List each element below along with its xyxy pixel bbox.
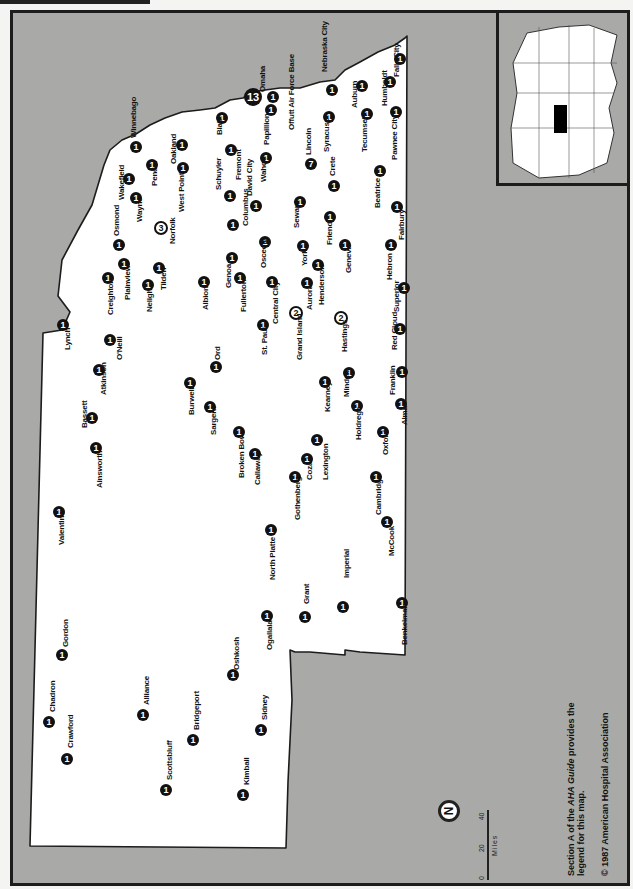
city-label: Broken Bow [237, 433, 246, 478]
city-label: Kimball [242, 758, 251, 786]
city-label: North Platte [268, 537, 277, 580]
hospital-count-marker: 1 [61, 753, 73, 765]
city-label: Creighton [106, 279, 115, 315]
city-label: Central City [271, 282, 280, 325]
city-label: Tilden [159, 268, 168, 290]
city-label: McCook [387, 526, 396, 556]
city-label: Oshkosh [232, 637, 241, 670]
hospital-count-marker: 1 [226, 252, 238, 264]
hospital-count-marker: 1 [160, 784, 172, 796]
city-label: St. Paul [260, 327, 269, 355]
city-label: Beatrice [373, 178, 382, 208]
city-label: Superior [392, 281, 401, 312]
city-label: Wahoo [259, 157, 268, 182]
legend-note: Section A of the AHA Guide provides the … [566, 702, 586, 876]
city-label: West Point [177, 173, 186, 212]
city-label: Henderson [317, 265, 326, 305]
hospital-count-marker: 1 [255, 724, 267, 736]
city-label: Grant [302, 584, 311, 604]
city-label: Schuyler [214, 158, 223, 190]
hospital-count-marker: 1 [299, 611, 311, 623]
scale-tick-40: 40 [478, 813, 485, 821]
hospital-count-marker: 1 [43, 716, 55, 728]
city-label: York [300, 250, 309, 266]
city-label: Crawford [66, 714, 75, 748]
city-label: Hebron [385, 253, 394, 280]
hospital-count-marker: 1 [137, 709, 149, 721]
city-label: Sidney [260, 695, 269, 720]
hospital-count-marker: 1 [210, 361, 222, 373]
nebraska-highlight [554, 105, 567, 133]
city-label: Lincoln [304, 128, 313, 155]
city-label: Geneva [344, 245, 353, 273]
city-label: Chadron [48, 681, 57, 713]
city-label: Minden [342, 370, 351, 397]
city-label: Callaway [253, 452, 262, 485]
city-label: Blair [215, 118, 224, 135]
hospital-count-marker: 1 [56, 649, 68, 661]
scale-unit: Miles [491, 810, 498, 880]
city-label: Papillion [262, 113, 271, 145]
hospital-count-marker: 1 [396, 366, 408, 378]
hospital-count-marker: 1 [385, 239, 397, 251]
hospital-count-marker: 1 [130, 141, 142, 153]
city-label: Lexington [321, 444, 330, 480]
hospital-count-marker: 1 [113, 239, 125, 251]
hospital-count-marker: 1 [337, 601, 349, 613]
hospital-count-marker: 1 [224, 190, 236, 202]
city-label: O'Neill [115, 336, 124, 360]
city-label: Gothenberg [293, 477, 302, 520]
hospital-count-marker: 1 [326, 84, 338, 96]
city-label: Franklin [388, 365, 397, 395]
city-label: Burwell [187, 388, 196, 416]
city-label: Ainsworth [95, 451, 104, 488]
city-label: Genoa [224, 264, 233, 288]
city-label: Syracuse [322, 118, 331, 152]
hospital-count-marker: 7 [305, 158, 317, 170]
city-label: Omaha [258, 66, 267, 92]
city-label: Cozad [305, 457, 314, 480]
city-label: Aurora [305, 285, 314, 310]
city-label: Bridgeport [192, 691, 201, 730]
city-label: Ogallala [265, 620, 274, 650]
city-label: Alliance [142, 676, 151, 705]
city-label: Imperial [342, 549, 351, 578]
hospital-count-marker: 1 [328, 180, 340, 192]
city-label: Valentine [57, 512, 66, 545]
city-label: Sargent [209, 407, 218, 435]
city-label: Fairbury [397, 210, 406, 240]
city-label: Neligh [145, 289, 154, 312]
hospital-count-marker: 1 [187, 734, 199, 746]
city-label: Wayne [135, 198, 144, 223]
city-label: Alma [400, 406, 409, 425]
city-label: Cambridge [374, 475, 383, 515]
city-label: Fullerton [239, 280, 248, 312]
city-label: Crete [328, 157, 337, 176]
city-label: Red Cloud [390, 312, 399, 350]
city-label: Scottsbluff [165, 740, 174, 780]
hospital-count-marker: 1 [267, 91, 279, 103]
city-label: Gordon [61, 619, 70, 647]
hospital-count-marker: 1 [374, 165, 386, 177]
city-label: Hastings [340, 320, 349, 352]
city-label: Osceola [259, 238, 268, 268]
hospital-count-marker: 1 [265, 524, 277, 536]
hospital-count-marker: 1 [237, 789, 249, 801]
north-arrow-icon: N [438, 800, 460, 822]
scale-tick-0: 0 [478, 876, 485, 880]
copyright: © 1987 American Hospital Association [600, 712, 610, 876]
city-label: Osmond [112, 205, 121, 236]
city-label: Albion [201, 286, 210, 310]
city-label: Benkelman [400, 604, 409, 645]
city-label: Friend [325, 222, 334, 245]
hospital-count-marker: 1 [250, 200, 262, 212]
us-locator-inset [496, 10, 630, 186]
city-label: Holdrege [354, 407, 363, 440]
city-label: Grand Island [295, 314, 304, 361]
city-label: Oakland [169, 134, 178, 164]
city-label: Seward [292, 201, 301, 228]
city-label: Winnebago [129, 97, 138, 138]
city-label: Auburn [350, 81, 359, 108]
city-label: Norfolk [168, 217, 177, 244]
city-label: Columbus [241, 188, 250, 226]
